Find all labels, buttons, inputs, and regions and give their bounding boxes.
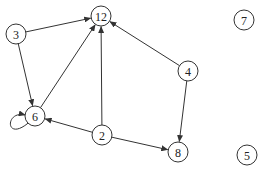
node-label: 3	[13, 28, 19, 42]
node-label: 6	[32, 110, 38, 124]
edge-2-to-12	[101, 26, 102, 125]
node-label: 7	[241, 14, 247, 28]
node-8: 8	[168, 142, 188, 162]
edge-2-to-6	[45, 119, 92, 132]
node-label: 2	[99, 129, 105, 143]
directed-graph: 123746285	[0, 0, 264, 181]
node-label: 12	[95, 10, 107, 24]
edge-4-to-8	[179, 81, 186, 142]
node-12: 12	[91, 6, 111, 26]
node-label: 4	[185, 65, 191, 79]
edge-6-to-12	[41, 25, 96, 108]
edge-4-to-12	[110, 22, 180, 66]
node-4: 4	[178, 61, 198, 81]
edge-3-to-12	[26, 18, 91, 32]
node-label: 5	[244, 149, 250, 163]
edge-2-to-8	[112, 137, 168, 150]
node-5: 5	[237, 145, 257, 165]
edge-3-to-6	[18, 44, 32, 106]
node-7: 7	[234, 10, 254, 30]
node-3: 3	[6, 24, 26, 44]
node-6: 6	[25, 106, 45, 126]
node-label: 8	[175, 146, 181, 160]
node-2: 2	[92, 125, 112, 145]
